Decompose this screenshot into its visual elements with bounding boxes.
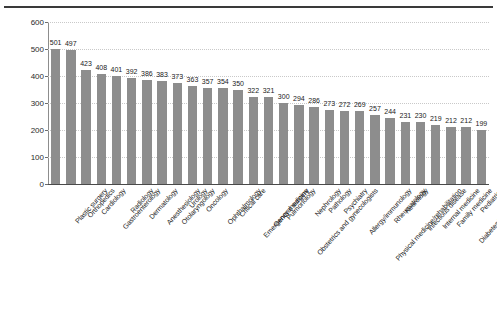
y-tick-label: 200 xyxy=(18,126,44,135)
bar xyxy=(309,107,318,184)
bar xyxy=(203,88,212,184)
bar xyxy=(294,105,303,184)
bar-value-label: 294 xyxy=(293,95,305,102)
bar-value-label: 257 xyxy=(369,105,381,112)
bar xyxy=(431,125,440,184)
bar xyxy=(173,83,182,184)
bar-value-label: 350 xyxy=(232,80,244,87)
bar xyxy=(340,111,349,184)
bar-value-label: 401 xyxy=(111,66,123,73)
y-tick-mark xyxy=(45,184,48,185)
gridline xyxy=(48,184,489,185)
bar xyxy=(416,122,425,184)
chart-figure: Annual compensation in thousand U.S. dol… xyxy=(0,0,497,312)
bar-value-label: 199 xyxy=(476,120,488,127)
bar-value-label: 408 xyxy=(95,64,107,71)
bar-value-label: 212 xyxy=(445,117,457,124)
y-tick-label: 400 xyxy=(18,72,44,81)
bar xyxy=(325,110,334,184)
y-tick-mark xyxy=(45,49,48,50)
y-tick-label: 500 xyxy=(18,45,44,54)
y-tick-mark xyxy=(45,22,48,23)
bar xyxy=(112,76,121,184)
bar xyxy=(370,115,379,184)
bar-value-label: 322 xyxy=(247,87,259,94)
gridline xyxy=(48,49,489,50)
bar xyxy=(157,81,166,184)
bar-value-label: 269 xyxy=(354,101,366,108)
plot-area: 5014974234084013923863833733633573543503… xyxy=(48,22,489,184)
bar xyxy=(127,78,136,184)
bar-value-label: 321 xyxy=(263,87,275,94)
y-tick-label: 100 xyxy=(18,153,44,162)
bar-value-label: 230 xyxy=(415,112,427,119)
bar xyxy=(81,70,90,184)
bar-value-label: 300 xyxy=(278,93,290,100)
bar-value-label: 273 xyxy=(323,100,335,107)
y-tick-mark xyxy=(45,130,48,131)
y-tick-mark xyxy=(45,76,48,77)
bar-value-label: 423 xyxy=(80,60,92,67)
bar-value-label: 219 xyxy=(430,115,442,122)
y-tick-label: 0 xyxy=(18,180,44,189)
bar-value-label: 272 xyxy=(339,101,351,108)
bar-value-label: 231 xyxy=(400,112,412,119)
bar xyxy=(279,103,288,184)
gridline xyxy=(48,22,489,23)
bar-value-label: 354 xyxy=(217,78,229,85)
y-tick-mark xyxy=(45,103,48,104)
bar xyxy=(249,97,258,184)
bar-value-label: 392 xyxy=(126,68,138,75)
bar-value-label: 383 xyxy=(156,71,168,78)
bar xyxy=(188,86,197,184)
bar-value-label: 497 xyxy=(65,40,77,47)
bar-value-label: 373 xyxy=(171,73,183,80)
bar xyxy=(264,97,273,184)
top-rule-divider xyxy=(4,6,493,8)
bar-value-label: 212 xyxy=(460,117,472,124)
bar xyxy=(355,111,364,184)
bar xyxy=(446,127,455,184)
bar-value-label: 286 xyxy=(308,97,320,104)
bar xyxy=(66,50,75,184)
bar xyxy=(401,122,410,184)
y-tick-mark xyxy=(45,157,48,158)
bar xyxy=(477,130,486,184)
bar xyxy=(97,74,106,184)
y-tick-label: 300 xyxy=(18,99,44,108)
bar xyxy=(51,49,60,184)
bar xyxy=(233,90,242,185)
bar-value-label: 363 xyxy=(187,76,199,83)
bar-value-label: 501 xyxy=(50,39,62,46)
bar-value-label: 357 xyxy=(202,78,214,85)
bar xyxy=(385,118,394,184)
bar xyxy=(461,127,470,184)
y-tick-label: 600 xyxy=(18,18,44,27)
bar xyxy=(218,88,227,184)
bar xyxy=(142,80,151,184)
bar-value-label: 386 xyxy=(141,70,153,77)
bar-value-label: 244 xyxy=(384,108,396,115)
